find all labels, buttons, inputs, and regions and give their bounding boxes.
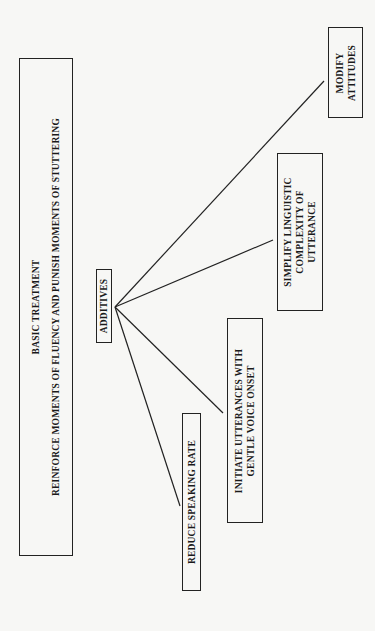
additives-box: ADDITIVES xyxy=(96,269,112,343)
simplify-linguistic-box: SIMPLIFY LINGUISTIC COMPLEXITY OF UTTERA… xyxy=(277,153,323,311)
basic-treatment-subtitle: REINFORCE MOMENTS OF FLUENCY AND PUNISH … xyxy=(46,118,66,496)
simplify-line-1: SIMPLIFY LINGUISTIC xyxy=(282,177,294,286)
connector-simplify xyxy=(115,240,273,307)
modify-line-2: ATTITUDES xyxy=(346,44,358,100)
initiate-line-2: GENTLE VOICE ONSET xyxy=(245,348,257,492)
initiate-utterances-box: INITIATE UTTERANCES WITH GENTLE VOICE ON… xyxy=(227,318,263,523)
basic-treatment-title: BASIC TREATMENT xyxy=(26,118,46,496)
modify-line-1: MODIFY xyxy=(334,44,346,100)
simplify-line-3: UTTERANCE xyxy=(306,177,318,286)
modify-attitudes-box: MODIFY ATTITUDES xyxy=(328,27,363,118)
reduce-speaking-rate-label: REDUCE SPEAKING RATE xyxy=(186,440,198,564)
reduce-speaking-rate-box: REDUCE SPEAKING RATE xyxy=(182,413,201,591)
connector-reduce xyxy=(115,307,180,506)
basic-treatment-box: BASIC TREATMENT REINFORCE MOMENTS OF FLU… xyxy=(19,58,73,556)
simplify-line-2: COMPLEXITY OF xyxy=(294,177,306,286)
additives-label: ADDITIVES xyxy=(98,279,110,334)
initiate-line-1: INITIATE UTTERANCES WITH xyxy=(233,348,245,492)
connector-initiate xyxy=(115,307,223,413)
